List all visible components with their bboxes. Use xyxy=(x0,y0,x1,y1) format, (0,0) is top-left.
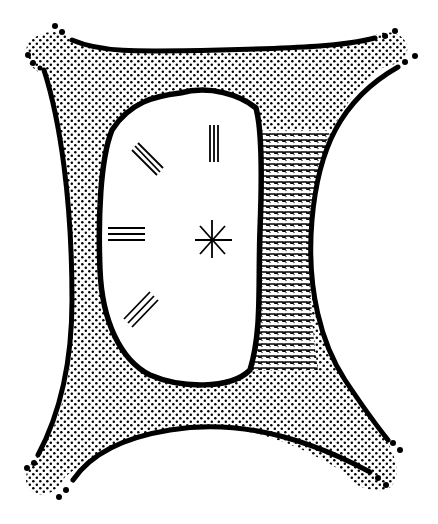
diagram-canvas xyxy=(0,0,438,524)
central-body xyxy=(99,90,261,385)
tissue-diagram xyxy=(0,0,438,524)
